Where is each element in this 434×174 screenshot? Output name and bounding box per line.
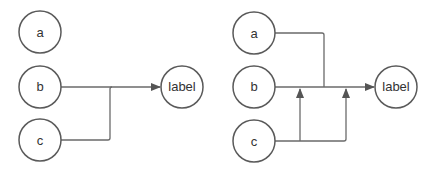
- node-label-text: label: [168, 79, 196, 94]
- node-label: a: [36, 25, 44, 40]
- edge-c-bottom: [275, 139, 346, 141]
- node-label: label: [161, 66, 203, 108]
- right-diagram: a b c label: [233, 12, 417, 162]
- node-label: b: [36, 79, 43, 94]
- edge-c-to-label: [61, 87, 112, 140]
- node-a: a: [19, 11, 61, 53]
- node-label: a: [250, 26, 258, 41]
- node-b: b: [19, 66, 61, 108]
- edge-a-to-label: [275, 33, 324, 87]
- node-a: a: [233, 12, 275, 54]
- node-label-text: label: [382, 79, 410, 94]
- node-label: b: [250, 79, 257, 94]
- left-diagram: a b c label: [19, 11, 203, 161]
- node-label: label: [375, 66, 417, 108]
- diagram-canvas: a b c label a b c: [0, 0, 434, 174]
- node-b: b: [233, 66, 275, 108]
- node-label: c: [251, 134, 258, 149]
- node-label: c: [37, 133, 44, 148]
- node-c: c: [19, 119, 61, 161]
- node-c: c: [233, 120, 275, 162]
